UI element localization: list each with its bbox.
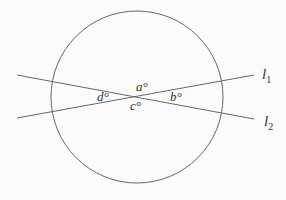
line-label-l2: l2 bbox=[264, 113, 273, 132]
geometry-diagram: l1 l2 a° b° c° d° bbox=[0, 0, 286, 200]
angle-label-a: a° bbox=[136, 79, 148, 94]
angle-label-b: b° bbox=[170, 89, 182, 104]
angle-label-c: c° bbox=[130, 98, 141, 113]
angle-label-d: d° bbox=[97, 89, 109, 104]
line-label-l1: l1 bbox=[262, 66, 271, 85]
